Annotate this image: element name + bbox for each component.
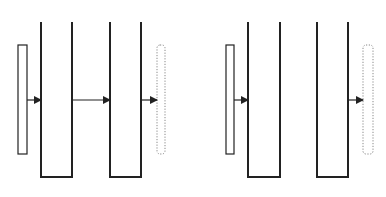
source-plate [18, 45, 27, 154]
target-plate-dotted [157, 45, 165, 154]
diagram-canvas [0, 0, 386, 197]
u-channel [41, 22, 72, 177]
u-channel [248, 22, 280, 177]
u-channel [110, 22, 141, 177]
source-plate [226, 45, 234, 154]
right-panel [226, 22, 373, 177]
left-panel [18, 22, 165, 177]
target-plate-dotted [363, 45, 373, 154]
u-channel [317, 22, 348, 177]
